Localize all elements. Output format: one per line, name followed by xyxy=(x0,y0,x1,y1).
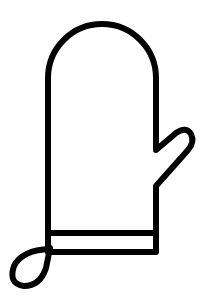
oven-mitt-canvas xyxy=(0,0,206,300)
hanging-loop xyxy=(12,248,50,286)
mitt-body-outline xyxy=(48,24,192,252)
oven-mitt-icon xyxy=(0,0,206,300)
